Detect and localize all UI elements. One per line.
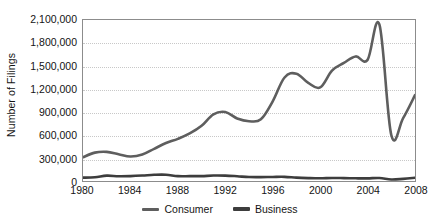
y-axis-title: Number of Filings	[0, 0, 22, 190]
legend-item-business[interactable]: Business	[233, 203, 298, 215]
y-tick-label: 600,000	[39, 129, 77, 141]
y-axis-tick-labels: 0300,000600,000900,0001,200,0001,500,000…	[20, 0, 80, 200]
series-line-consumer	[83, 22, 415, 157]
x-tick-label: 1996	[261, 184, 284, 196]
y-tick-label: 2,100,000	[30, 13, 77, 25]
y-tick-label: 900,000	[39, 106, 77, 118]
chart-legend: ConsumerBusiness	[0, 199, 440, 219]
legend-swatch-icon	[142, 208, 159, 211]
legend-label: Consumer	[164, 203, 212, 215]
x-tick-label: 1984	[118, 184, 141, 196]
x-tick-label: 1992	[213, 184, 236, 196]
x-axis-tick-labels: 19801984198819921996200020042008	[82, 184, 416, 200]
x-tick-label: 1980	[70, 184, 93, 196]
legend-swatch-icon	[233, 207, 250, 211]
legend-label: Business	[255, 203, 298, 215]
y-tick-label: 300,000	[39, 153, 77, 165]
y-tick-label: 1,800,000	[30, 36, 77, 48]
filings-line-chart: Number of Filings 0300,000600,000900,000…	[0, 0, 440, 222]
series-lines	[83, 20, 415, 181]
x-tick-label: 1988	[166, 184, 189, 196]
x-tick-label: 2004	[357, 184, 380, 196]
y-tick-label: 1,200,000	[30, 83, 77, 95]
legend-item-consumer[interactable]: Consumer	[142, 203, 212, 215]
y-tick-label: 1,500,000	[30, 60, 77, 72]
x-tick-label: 2000	[309, 184, 332, 196]
plot-area	[82, 19, 416, 182]
series-line-business	[83, 175, 415, 180]
x-tick-label: 2008	[404, 184, 427, 196]
y-axis-title-label: Number of Filings	[5, 53, 17, 137]
